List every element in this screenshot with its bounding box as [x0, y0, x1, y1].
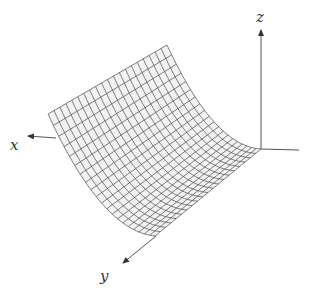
z-axis-label: z	[255, 8, 264, 26]
x-axis	[28, 136, 56, 138]
parabolic-cylinder-surface	[48, 45, 261, 236]
y-axis	[123, 236, 156, 263]
x-axis-negative	[261, 149, 299, 150]
surface-plot: z x y	[0, 0, 312, 290]
x-axis-label: x	[10, 136, 19, 154]
y-axis-label: y	[99, 267, 109, 285]
